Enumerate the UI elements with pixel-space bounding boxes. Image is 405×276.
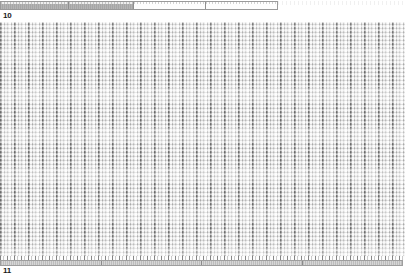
top-ruler-track[interactable]: [0, 1, 278, 10]
top-ruler-segment-1[interactable]: [1, 2, 69, 9]
top-ruler-hatch-tail: [278, 1, 405, 5]
bottom-ruler-segment-4[interactable]: [303, 261, 403, 265]
bottom-ruler-segment-2[interactable]: [102, 261, 203, 265]
top-ruler-segment-3[interactable]: [134, 2, 205, 9]
segment-hatch-icon: [69, 2, 134, 4]
bottom-ruler-segment-3[interactable]: [202, 261, 303, 265]
bottom-ruler-segment-1[interactable]: [1, 261, 102, 265]
page-break-label-top: 10: [3, 11, 12, 20]
grid-vignette: [0, 22, 405, 260]
bottom-ruler-track[interactable]: [0, 260, 403, 266]
segment-hatch-icon: [134, 2, 204, 4]
top-ruler-segment-4[interactable]: [206, 2, 277, 9]
page-break-label-bottom: 11: [3, 266, 11, 275]
segment-hatch-icon: [1, 2, 68, 4]
content-grid[interactable]: [0, 22, 405, 260]
bottom-ruler[interactable]: [0, 260, 403, 266]
top-ruler[interactable]: [0, 1, 278, 10]
top-ruler-segment-2[interactable]: [69, 2, 135, 9]
segment-hatch-icon: [206, 2, 277, 4]
